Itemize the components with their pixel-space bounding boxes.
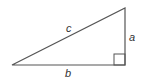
right-angle-marker [114,54,125,65]
label-horizontal-leg-b: b [65,67,71,79]
triangle-shape [12,8,125,65]
right-triangle-diagram: c a b [0,0,141,79]
label-vertical-leg-a: a [129,31,135,43]
label-hypotenuse-c: c [66,22,72,34]
